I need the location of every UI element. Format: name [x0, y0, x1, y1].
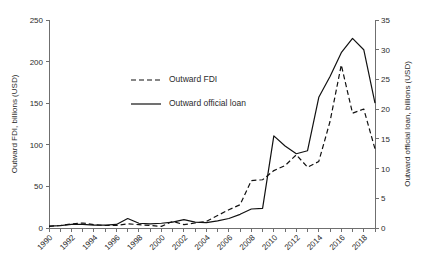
right-axis-tick-label: 15: [381, 135, 390, 144]
right-axis-tick-label: 30: [381, 46, 390, 55]
legend-label-1: Outward FDI: [169, 74, 217, 84]
left-axis-tick-label: 0: [39, 224, 44, 233]
right-axis-tick-label: 20: [381, 105, 390, 114]
left-axis-title: Outward FDI, billions (USD): [10, 74, 19, 173]
chart-container: 050100150200250 05101520253035 199019921…: [0, 0, 422, 267]
right-axis-tick-label: 5: [381, 194, 386, 203]
dual-axis-line-chart: 050100150200250 05101520253035 199019921…: [0, 0, 422, 267]
right-axis-tick-label: 0: [381, 224, 386, 233]
right-axis-title: Outward official loan, billions (USD): [403, 61, 412, 187]
right-axis-tick-label: 25: [381, 75, 390, 84]
right-axis-tick-label: 35: [381, 16, 390, 25]
left-axis-tick-label: 200: [30, 58, 44, 67]
left-axis-tick-label: 250: [30, 16, 44, 25]
right-axis-tick-label: 10: [381, 165, 390, 174]
left-axis-tick-label: 50: [34, 182, 43, 191]
left-axis-tick-label: 100: [30, 141, 44, 150]
chart-background: [0, 0, 422, 267]
legend-label-2: Outward official loan: [169, 98, 246, 108]
left-axis-tick-label: 150: [30, 99, 44, 108]
